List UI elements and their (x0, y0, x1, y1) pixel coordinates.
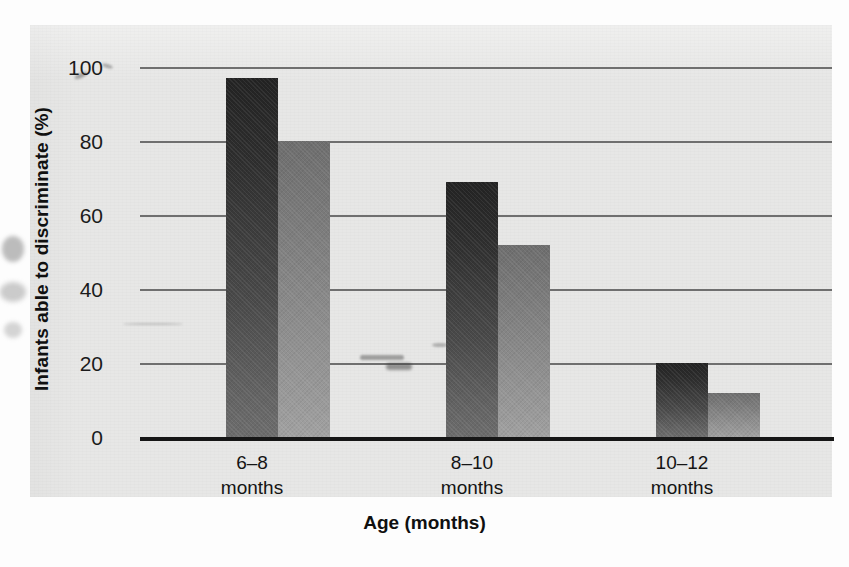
bar-10-12-months-series-1[interactable] (656, 363, 708, 437)
x-category-label-10-12-months: 10–12 months (596, 450, 768, 500)
y-tick-text: 60 (80, 204, 103, 227)
plot-panel (30, 25, 832, 497)
chart-page: 100 80 60 40 20 0 Infants able to discri… (0, 0, 849, 567)
bar-texture (656, 363, 708, 437)
y-tick-label-80: 80 (55, 130, 103, 154)
x-category-line-2: months (596, 475, 768, 500)
x-category-line-1: 10–12 (596, 450, 768, 475)
x-category-line-1: 6–8 (166, 450, 338, 475)
bar-texture (226, 78, 278, 437)
x-axis-title: Age (months) (0, 512, 849, 534)
y-tick-label-60: 60 (55, 204, 103, 228)
y-tick-text: 0 (91, 426, 103, 449)
bar-8-10-months-series-1[interactable] (446, 182, 498, 437)
x-category-line-1: 8–10 (386, 450, 558, 475)
y-tick-text: 100 (68, 56, 103, 79)
x-category-label-6-8-months: 6–8 months (166, 450, 338, 500)
y-tick-label-100: 100 (55, 56, 103, 80)
bar-10-12-months-series-2[interactable] (708, 393, 760, 437)
bars-layer (30, 25, 832, 497)
x-category-line-2: months (166, 475, 338, 500)
y-tick-text: 80 (80, 130, 103, 153)
y-axis-title: Infants able to discriminate (%) (31, 49, 53, 449)
y-tick-text: 40 (80, 278, 103, 301)
bar-8-10-months-series-2[interactable] (498, 245, 550, 437)
bar-texture (498, 245, 550, 437)
y-tick-label-40: 40 (55, 278, 103, 302)
bar-6-8-months-series-1[interactable] (226, 78, 278, 437)
x-category-label-8-10-months: 8–10 months (386, 450, 558, 500)
bar-texture (278, 141, 330, 437)
bar-6-8-months-series-2[interactable] (278, 141, 330, 437)
y-tick-label-0: 0 (55, 426, 103, 450)
y-tick-text: 20 (80, 352, 103, 375)
bar-texture (708, 393, 760, 437)
bar-texture (446, 182, 498, 437)
x-category-line-2: months (386, 475, 558, 500)
y-tick-label-20: 20 (55, 352, 103, 376)
